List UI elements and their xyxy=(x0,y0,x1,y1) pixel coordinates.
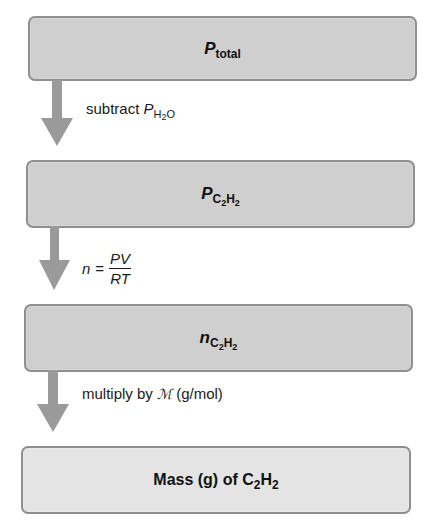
down-arrow-icon xyxy=(36,370,70,434)
step-label-ideal-gas: n = PV RT xyxy=(82,250,131,287)
box-mass-c2h2-label: Mass (g) of C2H2 xyxy=(153,471,278,489)
down-arrow-icon xyxy=(38,226,72,292)
step-label-subtract-water: subtract PH2O xyxy=(86,100,175,117)
box-p-total: Ptotal xyxy=(28,16,417,81)
molar-mass-symbol: ℳ xyxy=(157,386,172,402)
down-arrow-icon xyxy=(40,80,74,148)
box-n-c2h2-label: nC2H2 xyxy=(200,328,238,348)
box-p-c2h2: PC2H2 xyxy=(26,160,415,228)
box-n-c2h2: nC2H2 xyxy=(24,304,413,372)
box-p-total-label: Ptotal xyxy=(204,39,241,59)
fraction-pv-rt: PV RT xyxy=(109,250,131,287)
box-p-c2h2-label: PC2H2 xyxy=(201,184,240,204)
step-label-multiply-molar-mass: multiply by ℳ (g/mol) xyxy=(82,385,223,402)
box-mass-c2h2: Mass (g) of C2H2 xyxy=(21,446,411,514)
